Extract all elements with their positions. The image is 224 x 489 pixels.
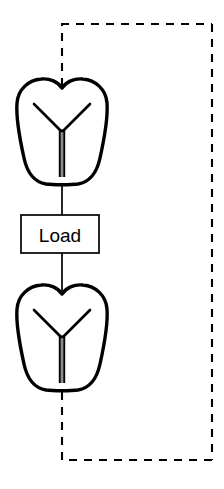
node-antibody-bottom[interactable] [17,285,107,391]
diagram-svg: Load [0,0,224,489]
diagram-canvas: Load [0,0,224,489]
node-load-box[interactable]: Load [21,215,99,253]
load-box-label: Load [39,225,81,246]
node-antibody-top[interactable] [17,79,107,185]
